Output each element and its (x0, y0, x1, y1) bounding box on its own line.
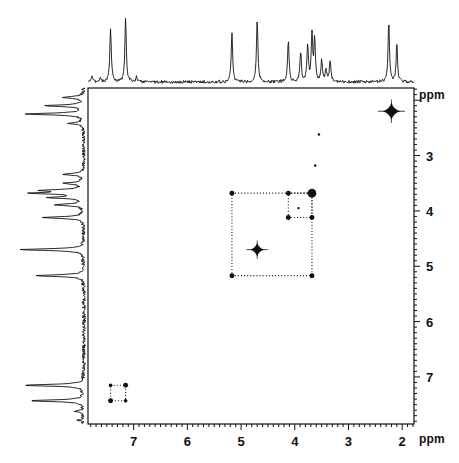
cp-7p15-7p43 (124, 399, 128, 403)
nmr-figure-root: 76543234567 ppm ppm (0, 0, 459, 463)
y-tick-label: 5 (426, 259, 433, 274)
diag-4p70 (247, 240, 268, 258)
x-tick-label: 4 (291, 434, 299, 449)
cp-3p68-4p12 (309, 215, 314, 220)
cp-4p12-3p68 (286, 191, 291, 196)
connectivity-boxes (111, 193, 312, 401)
box-inner-spin-system (288, 193, 312, 217)
cp-7p43-7p15 (109, 383, 113, 387)
contour-plot-panel: 76543234567 (0, 0, 459, 463)
x-tick-label: 5 (237, 434, 244, 449)
y-tick-label: 6 (426, 315, 433, 330)
x-tick-label: 6 (184, 434, 191, 449)
diagonal-peaks (108, 100, 405, 404)
bottom-axis: 765432 (91, 424, 413, 449)
cp-3p68-5p17 (309, 273, 314, 278)
bottom-axis-unit-label: ppm (419, 432, 445, 446)
cp-4p12-4p12 (286, 216, 290, 220)
cp-3p62-3p18 (314, 164, 316, 166)
y-tick-label: 4 (426, 204, 434, 219)
y-tick-label: 3 (426, 149, 433, 164)
cp-7p15-7p15 (124, 383, 128, 387)
right-axis-unit-label: ppm (419, 88, 445, 102)
right-axis: 34567 (414, 89, 434, 421)
x-tick-label: 7 (130, 434, 137, 449)
cp-3p55-2p62 (318, 133, 320, 135)
x-tick-label: 3 (345, 434, 352, 449)
y-tick-label: 7 (426, 370, 433, 385)
cp-3p90-3p98 (297, 207, 299, 209)
cp-5p17-3p68 (229, 191, 234, 196)
x-tick-label: 2 (399, 434, 406, 449)
box-outer-spin-system (232, 193, 312, 275)
diag-2p20 (378, 100, 405, 123)
contour-plot-border (88, 88, 414, 424)
cp-7p43-7p43 (109, 399, 113, 403)
cross-peaks (109, 133, 320, 402)
box-aromatic-spin-system (111, 385, 126, 400)
diag-5p17 (229, 273, 234, 278)
diag-3p68 (308, 189, 317, 198)
contour-plot-canvas: 76543234567 (0, 0, 459, 463)
